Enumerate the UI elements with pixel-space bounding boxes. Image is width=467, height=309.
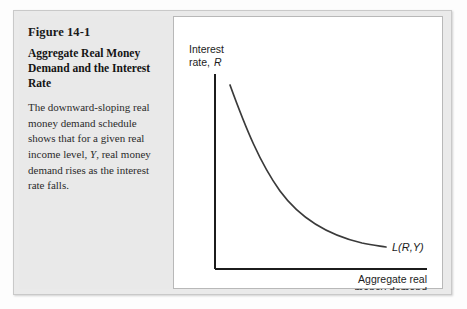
x-axis-label-line-2: money demand: [355, 285, 428, 290]
caption-column: Figure 14-1 Aggregate Real Money Demand …: [19, 16, 174, 289]
caption-text-part-1: The downward-sloping: [28, 101, 130, 113]
y-axis-label-line-2: rate,R: [189, 56, 222, 68]
money-demand-chart: Interest rate,R L(R,Y) Aggregate real mo…: [174, 17, 444, 290]
figure-caption-body: The downward-sloping real money demand s…: [28, 100, 165, 194]
figure-root: Figure 14-1 Aggregate Real Money Demand …: [0, 0, 467, 309]
curve-label: L(R,Y): [392, 241, 424, 253]
y-axis-label-line-1: Interest: [189, 43, 224, 55]
y-axis-label-text: rate,: [189, 56, 210, 68]
x-axis-label-line-1: Aggregate real: [358, 273, 427, 285]
money-demand-curve: [230, 85, 386, 247]
figure-heading: Aggregate Real Money Demand and the Inte…: [28, 46, 165, 91]
figure-number: Figure 14-1: [28, 25, 165, 39]
chart-panel: Interest rate,R L(R,Y) Aggregate real mo…: [173, 16, 443, 289]
figure-frame: Figure 14-1 Aggregate Real Money Demand …: [13, 10, 452, 295]
y-axis-variable-r: R: [214, 56, 222, 68]
